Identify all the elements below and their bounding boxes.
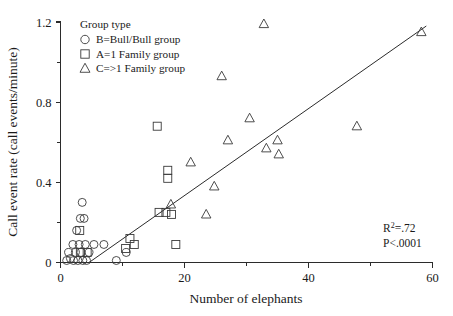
- data-point-triangle: [352, 121, 361, 130]
- x-tick-label: 40: [302, 271, 315, 285]
- data-point-triangle: [274, 149, 283, 158]
- data-point-triangle: [262, 143, 271, 152]
- legend-title: Group type: [80, 18, 131, 30]
- x-axis-title: Number of elephants: [189, 291, 302, 306]
- legend-label: B=Bull/Bull group: [96, 33, 181, 45]
- r-squared-annotation: R2=.72: [383, 221, 416, 234]
- x-tick-label: 0: [57, 271, 63, 285]
- y-tick-label: 0.8: [36, 96, 52, 110]
- y-axis-title: Call event rate (call events/minute): [5, 47, 20, 237]
- data-point-triangle: [217, 71, 226, 80]
- y-tick-label: 0: [45, 256, 51, 270]
- data-point-circle: [100, 240, 108, 248]
- data-point-circle: [77, 248, 85, 256]
- data-point-triangle: [186, 157, 195, 166]
- data-point-triangle: [259, 19, 268, 28]
- data-point-square: [164, 166, 172, 174]
- data-point-circle: [73, 226, 81, 234]
- scatter-plot-figure: 020406000.40.81.2 Number of elephants Ca…: [0, 0, 453, 316]
- data-point-triangle: [245, 113, 254, 122]
- data-point-circle: [81, 240, 89, 248]
- series-markers-one-family: [76, 122, 180, 256]
- data-point-triangle: [273, 135, 282, 144]
- legend-marker-circle: [81, 35, 89, 43]
- stats-annotation: R2=.72 P<.0001: [383, 221, 422, 249]
- x-tick-label: 20: [178, 271, 191, 285]
- legend-label: C=>1 Family group: [96, 62, 185, 74]
- y-tick-label: 0.4: [36, 176, 52, 190]
- data-point-triangle: [201, 209, 210, 218]
- data-point-square: [153, 122, 161, 130]
- plot-canvas: 020406000.40.81.2 Number of elephants Ca…: [0, 0, 453, 316]
- data-point-triangle: [166, 199, 175, 208]
- legend-items: B=Bull/Bull groupA=1 Family groupC=>1 Fa…: [80, 33, 185, 74]
- legend-marker-square: [81, 50, 89, 58]
- legend-label: A=1 Family group: [96, 48, 180, 60]
- data-point-triangle: [210, 181, 219, 190]
- x-tick-label: 60: [426, 271, 439, 285]
- series-markers-multi-family: [166, 19, 426, 218]
- data-point-circle: [90, 240, 98, 248]
- r-squared-value: =.72: [395, 222, 416, 234]
- p-value-annotation: P<.0001: [383, 237, 422, 249]
- data-point-square: [164, 174, 172, 182]
- legend-marker-triangle: [80, 63, 90, 72]
- data-point-circle: [78, 198, 86, 206]
- data-point-square: [172, 240, 180, 248]
- data-point-circle: [112, 256, 120, 264]
- data-point-square: [167, 210, 175, 218]
- y-tick-label: 1.2: [36, 16, 52, 30]
- legend: Group type B=Bull/Bull groupA=1 Family g…: [80, 18, 185, 74]
- data-point-circle: [85, 248, 93, 256]
- series-markers-bull-bull: [63, 198, 131, 264]
- data-point-triangle: [223, 135, 232, 144]
